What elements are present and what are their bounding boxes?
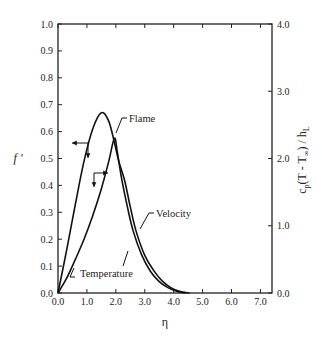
y-axis-title-left: f ' (14, 151, 23, 165)
y-tick-label-left: 0.0 (41, 288, 54, 299)
rt-end: ) / h (295, 131, 309, 150)
plot-svg: 0.01.02.03.04.05.06.07.00.00.10.20.30.40… (0, 0, 322, 341)
axes (58, 24, 272, 293)
curve-velocity (58, 113, 190, 293)
temperature-label: Temperature (80, 268, 133, 279)
y-tick-label-right: 4.0 (277, 19, 290, 30)
ticks: 0.01.02.03.04.05.06.07.00.00.10.20.30.40… (41, 19, 290, 308)
chart-container: 0.01.02.03.04.05.06.07.00.00.10.20.30.40… (0, 0, 322, 341)
x-tick-label: 7.0 (254, 296, 267, 307)
y-tick-label-left: 0.5 (41, 153, 54, 164)
velocity-leader (140, 213, 154, 229)
y-tick-label-left: 0.1 (41, 261, 54, 272)
x-axis-title: η (162, 315, 168, 329)
rt-L: L (302, 126, 311, 131)
y-tick-label-right: 3.0 (277, 86, 290, 97)
y-tick-label-right: 2.0 (277, 153, 290, 164)
svg-text:cp(T - T∞) / hL: cp(T - T∞) / hL (295, 126, 311, 194)
y-tick-label-left: 0.4 (41, 180, 54, 191)
flame-leader (116, 118, 127, 133)
temperature-leader-2 (123, 251, 128, 266)
curves (58, 113, 190, 293)
y-tick-label-left: 0.6 (41, 126, 54, 137)
x-tick-label: 5.0 (196, 296, 209, 307)
x-tick-label: 2.0 (110, 296, 123, 307)
y-axis-title-right: cp(T - T∞) / hL (295, 126, 311, 194)
x-tick-label: 6.0 (225, 296, 238, 307)
x-tick-label: 0.0 (52, 296, 65, 307)
y-tick-label-right: 1.0 (277, 220, 290, 231)
plot-frame (58, 24, 272, 293)
arrowhead-icon (92, 182, 97, 187)
arrowhead-icon (72, 141, 77, 146)
x-tick-label: 3.0 (139, 296, 152, 307)
arrowhead-icon (86, 153, 91, 158)
rt-mid: (T - T (295, 156, 309, 185)
y-tick-label-left: 0.3 (41, 207, 54, 218)
y-tick-label-left: 0.2 (41, 234, 54, 245)
y-tick-label-right: 0.0 (277, 288, 290, 299)
velocity-label: Velocity (156, 208, 192, 219)
x-tick-label: 1.0 (81, 296, 94, 307)
y-tick-label-left: 0.7 (41, 99, 54, 110)
annotations: FlameVelocityTemperature (70, 113, 192, 279)
y-tick-label-left: 1.0 (41, 19, 54, 30)
flame-label: Flame (129, 113, 156, 124)
x-tick-label: 4.0 (167, 296, 180, 307)
y-tick-label-left: 0.9 (41, 45, 54, 56)
y-tick-label-left: 0.8 (41, 72, 54, 83)
